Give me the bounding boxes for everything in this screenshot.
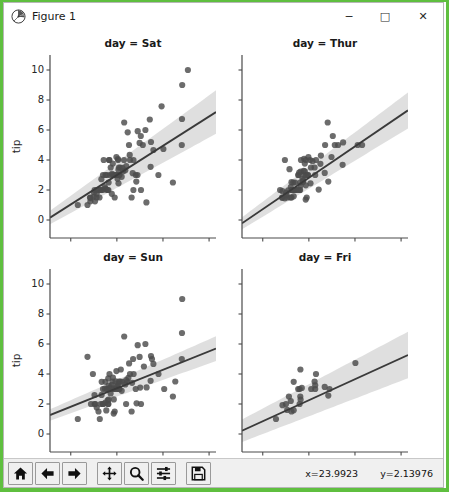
scatter-point xyxy=(155,172,161,178)
facet-title: day = Fri xyxy=(299,251,352,263)
scatter-point xyxy=(137,354,143,360)
scatter-point xyxy=(130,356,136,362)
regression-line xyxy=(242,110,408,223)
configure-subplots-icon xyxy=(156,466,171,481)
save-floppy-icon xyxy=(191,466,206,481)
scatter-point xyxy=(340,139,346,145)
scatter-point xyxy=(307,180,313,186)
y-tick-label: 4 xyxy=(38,154,44,165)
scatter-point xyxy=(298,396,304,402)
y-tick-label: 4 xyxy=(38,368,44,379)
scatter-point xyxy=(134,172,140,178)
scatter-point xyxy=(140,142,146,148)
confidence-band xyxy=(242,92,408,229)
facet-day-thur: day = Thur xyxy=(239,37,409,242)
regression-line xyxy=(242,355,408,431)
window-title: Figure 1 xyxy=(32,10,76,23)
scatter-point xyxy=(75,202,81,208)
scatter-point xyxy=(96,194,102,200)
confidence-band xyxy=(50,336,216,420)
scatter-point xyxy=(129,194,135,200)
y-tick-label: 10 xyxy=(31,64,44,75)
scatter-point xyxy=(291,193,297,199)
scatter-point xyxy=(138,401,144,407)
scatter-point xyxy=(141,363,147,369)
scatter-point xyxy=(299,385,305,391)
scatter-point xyxy=(170,393,176,399)
y-tick-label: 8 xyxy=(38,94,44,105)
home-icon xyxy=(13,466,28,481)
scatter-point xyxy=(185,67,191,73)
scatter-point xyxy=(179,116,185,122)
scatter-point xyxy=(304,194,310,200)
scatter-point xyxy=(130,187,136,193)
scatter-point xyxy=(159,103,165,109)
title-bar[interactable]: Figure 1 ─ □ ✕ xyxy=(4,3,443,29)
facet-title: day = Sun xyxy=(103,251,163,263)
scatter-point xyxy=(135,342,141,348)
forward-arrow-icon xyxy=(67,466,82,481)
navigation-toolbar: x=23.9923 y=2.13976 xyxy=(4,458,443,487)
scatter-point xyxy=(125,129,131,135)
scatter-point xyxy=(322,142,328,148)
scatter-point xyxy=(179,142,185,148)
scatter-point xyxy=(286,166,292,172)
y-tick-label: 0 xyxy=(38,428,44,439)
facet-day-fri: 0204060day = Fritotal_bill xyxy=(239,251,409,458)
save-button[interactable] xyxy=(186,462,211,485)
scatter-point xyxy=(143,199,149,205)
y-tick-label: 6 xyxy=(38,338,44,349)
configure-subplots-button[interactable] xyxy=(151,462,176,485)
scatter-point xyxy=(126,142,132,148)
scatter-point xyxy=(115,180,121,186)
scatter-point xyxy=(172,378,178,384)
scatter-point xyxy=(129,408,135,414)
scatter-point xyxy=(179,82,185,88)
scatter-point xyxy=(138,187,144,193)
back-button[interactable] xyxy=(35,462,60,485)
scatter-point xyxy=(313,371,319,377)
scatter-point xyxy=(312,386,318,392)
maximize-button[interactable]: □ xyxy=(367,3,403,29)
scatter-point xyxy=(121,119,127,125)
minimize-button[interactable]: ─ xyxy=(331,3,367,29)
scatter-point xyxy=(97,416,103,422)
scatter-point xyxy=(119,174,125,180)
scatter-point xyxy=(75,416,81,422)
scatter-point xyxy=(137,385,143,391)
scatter-point xyxy=(103,407,109,413)
pan-button[interactable] xyxy=(97,462,122,485)
scatter-point xyxy=(119,388,125,394)
close-button[interactable]: ✕ xyxy=(403,3,443,29)
scatter-point xyxy=(112,408,118,414)
scatter-point xyxy=(131,371,137,377)
window-controls: ─ □ ✕ xyxy=(331,3,443,29)
scatter-point xyxy=(148,378,154,384)
forward-button[interactable] xyxy=(62,462,87,485)
scatter-point xyxy=(291,379,297,385)
scatter-point xyxy=(118,366,124,372)
figure-canvas[interactable]: 0246810day = Sattipday = Thur02468100204… xyxy=(4,29,443,458)
scatter-point xyxy=(318,153,324,159)
scatter-point xyxy=(352,360,358,366)
zoom-button[interactable] xyxy=(124,462,149,485)
scatter-point xyxy=(297,366,303,372)
home-button[interactable] xyxy=(8,462,33,485)
scatter-point xyxy=(179,296,185,302)
y-axis-label: tip xyxy=(10,353,22,367)
scatter-point xyxy=(115,157,121,163)
lmplot-facet-grid[interactable]: 0246810day = Sattipday = Thur02468100204… xyxy=(4,29,443,458)
scatter-point xyxy=(111,396,117,402)
scatter-point xyxy=(325,179,331,185)
scatter-point xyxy=(325,119,331,125)
matplotlib-logo-icon xyxy=(11,9,26,24)
toolbar-save-group xyxy=(185,462,212,485)
scatter-point xyxy=(148,139,154,145)
scatter-point xyxy=(95,408,101,414)
scatter-point xyxy=(121,157,127,163)
scatter-point xyxy=(322,170,328,176)
scatter-point xyxy=(161,386,167,392)
scatter-point xyxy=(179,330,185,336)
scatter-point xyxy=(317,161,323,167)
scatter-point xyxy=(142,127,148,133)
